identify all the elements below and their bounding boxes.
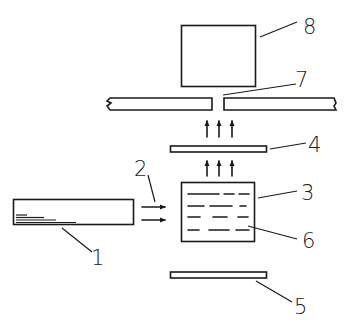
label-5: 5 <box>294 295 307 319</box>
component-3-box <box>182 183 255 242</box>
component-7-slit-plate <box>107 98 336 110</box>
upward-arrows-lower <box>207 161 232 176</box>
component-2-arrows <box>142 207 165 220</box>
component-6-dashed-lines <box>188 194 249 230</box>
leader-line-8 <box>260 22 297 37</box>
leader-line-1 <box>62 228 92 252</box>
leader-line-7 <box>223 84 296 95</box>
component-4-plate <box>171 146 267 152</box>
label-3: 3 <box>301 181 314 205</box>
upward-arrows-upper <box>207 121 232 137</box>
leader-line-3 <box>258 191 297 198</box>
label-1: 1 <box>91 246 104 270</box>
diagram-canvas: 8 7 4 3 6 <box>0 0 348 323</box>
component-1-bar <box>14 200 134 225</box>
leader-line-2 <box>148 175 155 202</box>
label-4: 4 <box>308 133 321 157</box>
label-8: 8 <box>303 15 316 39</box>
component-8-box <box>182 26 256 87</box>
leader-line-6 <box>248 226 297 239</box>
component-5-plate <box>171 272 267 278</box>
label-7: 7 <box>295 68 308 92</box>
label-6: 6 <box>302 229 315 253</box>
leader-line-5 <box>256 281 292 302</box>
label-2: 2 <box>134 157 147 181</box>
leader-line-4 <box>270 143 306 149</box>
